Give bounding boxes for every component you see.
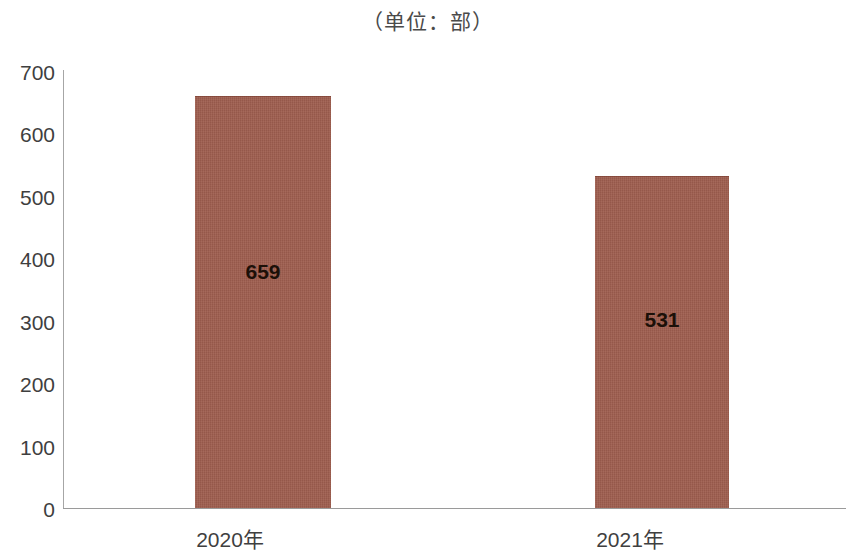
- y-tick-label: 500: [3, 187, 55, 208]
- bar-value-label-2020: 659: [195, 261, 331, 282]
- y-axis-tick-labels: 700 600 500 400 300 200 100 0: [0, 0, 55, 555]
- y-tick-label: 0: [3, 499, 55, 520]
- chart-title: （单位：部）: [0, 8, 856, 36]
- y-tick-label: 100: [3, 437, 55, 458]
- plot-area: 659 531: [63, 70, 845, 508]
- x-axis-line: [63, 508, 846, 509]
- y-tick-label: 300: [3, 312, 55, 333]
- y-tick-label: 700: [3, 62, 55, 83]
- x-axis-category-label-2021: 2021年: [530, 528, 730, 552]
- y-tick-label: 600: [3, 124, 55, 145]
- y-tick-label: 200: [3, 374, 55, 395]
- bar-2020[interactable]: [195, 96, 331, 508]
- bar-value-label-2021: 531: [595, 309, 729, 330]
- bar-chart: （单位：部） 700 600 500 400 300 200 100 0 659…: [0, 0, 856, 555]
- y-tick-label: 400: [3, 249, 55, 270]
- bar-2021[interactable]: [595, 176, 729, 508]
- x-axis-category-label-2020: 2020年: [130, 528, 330, 552]
